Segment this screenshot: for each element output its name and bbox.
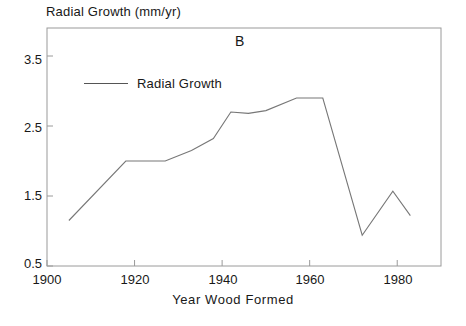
- y-axis-title: Radial Growth (mm/yr): [46, 4, 181, 19]
- plot-frame: [47, 28, 441, 266]
- x-tick-label-2: 1940: [193, 272, 253, 287]
- panel-label: B: [235, 33, 244, 49]
- legend-label-radial-growth: Radial Growth: [137, 76, 222, 91]
- series-line-radial-growth: [69, 98, 410, 235]
- legend-line-marker: [84, 83, 128, 84]
- y-tick-label-3: 3.5: [2, 52, 42, 67]
- x-axis-title: Year Wood Formed: [0, 292, 466, 307]
- chart-legend: Radial Growth: [84, 76, 222, 91]
- y-tick-label-0: 0.5: [2, 256, 42, 271]
- x-tick-label-1: 1920: [105, 272, 165, 287]
- x-tick-label-0: 1900: [17, 272, 77, 287]
- x-tick-label-3: 1960: [280, 272, 340, 287]
- chart-figure: Radial Growth (mm/yr) B Radial Growth 0.…: [0, 0, 466, 326]
- y-tick-label-1: 1.5: [2, 188, 42, 203]
- y-tick-marks: [47, 56, 53, 266]
- x-tick-marks: [47, 260, 397, 266]
- x-tick-label-4: 1980: [368, 272, 428, 287]
- y-tick-label-2: 2.5: [2, 120, 42, 135]
